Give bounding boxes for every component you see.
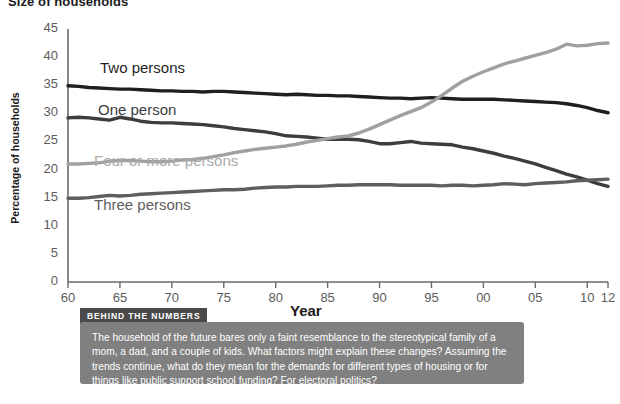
x-tick-label: 75 bbox=[206, 290, 242, 305]
callout-box: The household of the future bares only a… bbox=[80, 322, 524, 384]
x-tick-label: 00 bbox=[465, 290, 501, 305]
series-label-three-persons: Three persons bbox=[94, 196, 191, 213]
y-tick-label: 25 bbox=[30, 132, 58, 147]
y-axis-title: Percentage of households bbox=[9, 73, 21, 243]
series-label-four-or-more-persons: Four or more persons bbox=[94, 152, 238, 169]
x-tick-label: 12 bbox=[590, 290, 620, 305]
chart-svg bbox=[0, 0, 614, 310]
x-tick-label: 70 bbox=[154, 290, 190, 305]
y-tick-label: 0 bbox=[30, 273, 58, 288]
callout-text: The household of the future bares only a… bbox=[92, 331, 512, 389]
y-tick-label: 15 bbox=[30, 189, 58, 204]
y-tick-label: 30 bbox=[30, 104, 58, 119]
x-tick-label: 95 bbox=[413, 290, 449, 305]
x-tick-label: 05 bbox=[517, 290, 553, 305]
x-tick-label: 65 bbox=[102, 290, 138, 305]
y-tick-label: 40 bbox=[30, 48, 58, 63]
x-axis-ticks bbox=[68, 282, 608, 288]
series-label-two-persons: Two persons bbox=[100, 59, 185, 76]
x-tick-label: 80 bbox=[258, 290, 294, 305]
y-tick-label: 45 bbox=[30, 20, 58, 35]
x-tick-label: 90 bbox=[362, 290, 398, 305]
chart-plot-area: Percentage of households Year 0510152025… bbox=[0, 0, 614, 310]
y-tick-label: 10 bbox=[30, 217, 58, 232]
x-tick-label: 85 bbox=[310, 290, 346, 305]
y-tick-label: 5 bbox=[30, 245, 58, 260]
x-tick-label: 60 bbox=[50, 290, 86, 305]
series-label-one-person: One person bbox=[98, 101, 176, 118]
y-tick-label: 35 bbox=[30, 76, 58, 91]
y-tick-label: 20 bbox=[30, 161, 58, 176]
